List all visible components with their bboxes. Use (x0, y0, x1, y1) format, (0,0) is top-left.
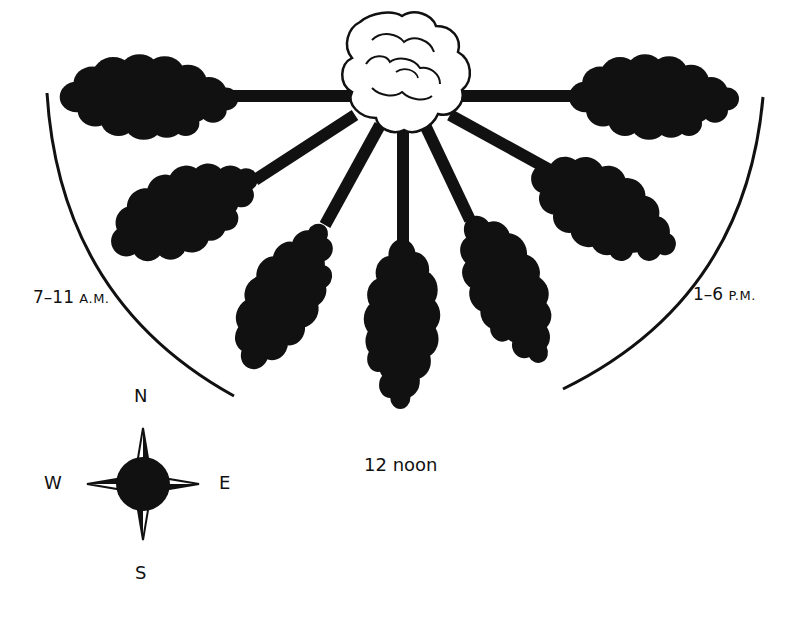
stem-east (460, 90, 580, 102)
stem-ese (450, 115, 550, 170)
shadow-ese (513, 134, 696, 285)
morning-time-range: 7–11 (33, 287, 74, 307)
stem-west (225, 90, 355, 102)
stem-wsw (255, 115, 355, 180)
shadow-west (60, 54, 239, 140)
stem-ssw (325, 125, 380, 225)
compass-west-label: W (44, 472, 62, 493)
shadow-diagram (0, 0, 806, 620)
morning-time-label: 7–11 A.M. (33, 287, 110, 307)
afternoon-time-suffix: P.M. (729, 288, 756, 303)
shadow-south (364, 239, 441, 409)
noon-time-label: 12 noon (364, 454, 437, 475)
shadow-east (569, 54, 739, 140)
shadow-ssw (214, 207, 355, 386)
tree-canopy-icon (342, 12, 470, 132)
compass-north-label: N (134, 385, 147, 406)
afternoon-time-label: 1–6 P.M. (693, 284, 756, 304)
compass-rose-icon (87, 428, 199, 540)
stem-sse (425, 125, 470, 220)
morning-time-suffix: A.M. (79, 291, 109, 306)
compass-east-label: E (219, 472, 230, 493)
shadow-wsw (93, 135, 276, 286)
compass-south-label: S (135, 562, 146, 583)
afternoon-time-range: 1–6 (693, 284, 723, 304)
